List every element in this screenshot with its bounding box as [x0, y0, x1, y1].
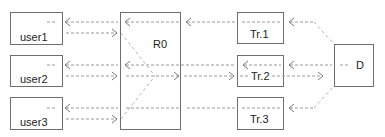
edge-user1-to-r0 [66, 29, 117, 37]
user1-label: user1 [20, 31, 48, 43]
edge-d-to-tr1 [289, 18, 334, 44]
d-label: D [356, 59, 364, 71]
user2-label: user2 [20, 73, 48, 85]
r0-label: R0 [153, 38, 167, 50]
edge-user3-to-r0 [66, 115, 117, 123]
tr1-label: Tr.1 [250, 28, 269, 40]
edge-user2-to-r0 [66, 72, 117, 80]
tr2-label: Tr.2 [251, 70, 270, 82]
user3-label: user3 [20, 116, 48, 128]
diagram-canvas [0, 0, 385, 137]
tr3-label: Tr.3 [250, 113, 269, 125]
edge-d-to-tr3 [289, 86, 334, 112]
